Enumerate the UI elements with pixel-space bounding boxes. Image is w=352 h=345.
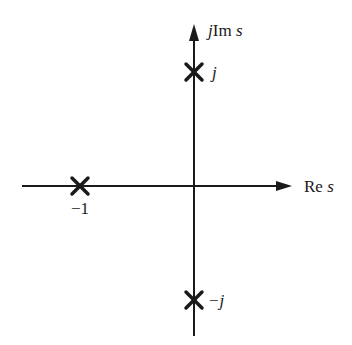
- imag-var: s: [236, 21, 243, 40]
- s-plane-diagram: [0, 0, 352, 345]
- pole-label-minus-j: −j: [208, 292, 224, 309]
- real-main: Re: [304, 177, 327, 196]
- pole-label-j: j: [212, 64, 217, 81]
- pole-label-minus-1: −1: [71, 200, 89, 217]
- imag-axis-arrow-icon: [189, 24, 199, 41]
- real-axis-label: Re s: [304, 178, 334, 195]
- real-var: s: [327, 177, 334, 196]
- imag-main: Im: [213, 21, 236, 40]
- imag-axis-label: jIm s: [208, 22, 243, 39]
- real-axis-arrow-icon: [276, 181, 292, 191]
